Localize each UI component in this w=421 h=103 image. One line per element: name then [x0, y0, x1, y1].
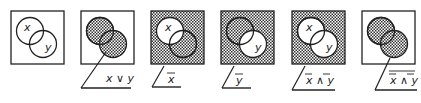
set-x-label: x [164, 21, 172, 34]
venn-panel-or: x ∨ y [81, 11, 135, 88]
caption-notx-and-noty: x ∧ y [305, 74, 335, 87]
set-x-label: x [305, 21, 313, 34]
venn-panel-not-y: y y [221, 11, 274, 88]
venn-panel-not-x: x x [151, 11, 204, 87]
set-y-label: y [325, 41, 333, 54]
venn-diagram-row: x y x ∨ y x x y y [0, 0, 421, 103]
venn-panel-base: x y [11, 11, 64, 64]
caption-not-x: x [167, 73, 175, 86]
venn-panel-not-notx-and-noty: x ∧ y [362, 11, 419, 90]
caption-not-y: y [235, 74, 243, 87]
set-x-label: x [23, 21, 31, 34]
set-y-label: y [44, 41, 52, 54]
caption-not-notx-and-noty: x ∧ y [389, 74, 419, 87]
caption-or: x ∨ y [105, 72, 135, 85]
venn-panel-notx-and-noty: x y x ∧ y [292, 11, 345, 90]
set-y-label: y [254, 41, 262, 54]
